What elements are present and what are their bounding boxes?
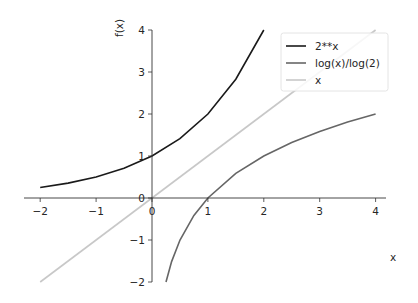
svg-text:1: 1 [205, 205, 212, 217]
y-axis-label: f(x) [113, 19, 125, 37]
legend-label-x: x [315, 74, 321, 86]
y-tick-labels: −2 −1 0 1 2 3 4 [130, 24, 146, 288]
svg-text:3: 3 [138, 66, 145, 78]
svg-text:0: 0 [149, 205, 156, 217]
y-ticks [148, 30, 152, 282]
svg-text:4: 4 [372, 205, 379, 217]
chart: −2 −1 0 1 2 3 4 −2 −1 0 1 2 3 4 x f(x) 2… [0, 0, 418, 303]
svg-text:4: 4 [138, 24, 145, 36]
x-axis-label: x [390, 251, 396, 263]
svg-text:2: 2 [260, 205, 267, 217]
x-tick-labels: −2 −1 0 1 2 3 4 [32, 205, 379, 217]
svg-text:0: 0 [138, 192, 145, 204]
legend-label-exp2: 2**x [315, 40, 338, 52]
svg-text:−1: −1 [130, 234, 145, 246]
x-ticks [40, 198, 375, 202]
svg-text:2: 2 [138, 108, 145, 120]
svg-text:−1: −1 [88, 205, 103, 217]
svg-text:1: 1 [138, 150, 145, 162]
legend: 2**x log(x)/log(2) x [281, 33, 388, 91]
svg-text:−2: −2 [130, 276, 145, 288]
legend-label-log2: log(x)/log(2) [315, 57, 380, 69]
svg-text:3: 3 [316, 205, 323, 217]
svg-text:−2: −2 [32, 205, 47, 217]
